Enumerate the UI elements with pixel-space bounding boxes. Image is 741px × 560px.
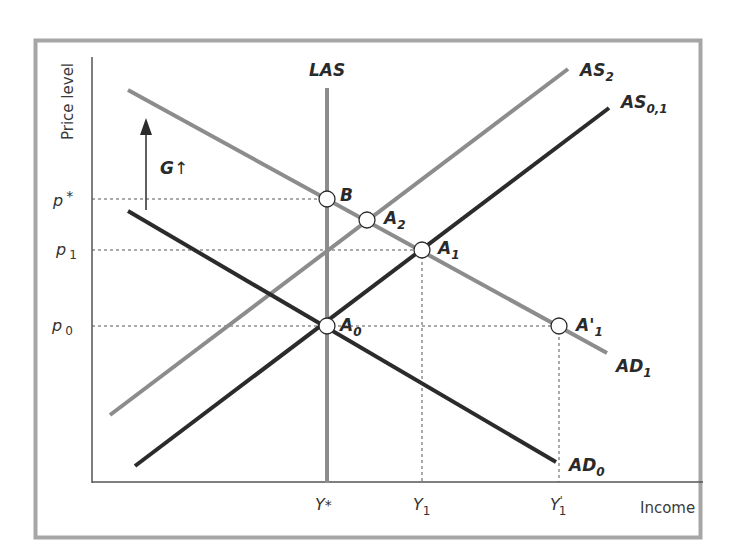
label-as2: AS2 bbox=[578, 60, 614, 84]
point-a0 bbox=[319, 318, 335, 334]
arrow-head-icon bbox=[140, 118, 152, 135]
point-a1-prime bbox=[551, 318, 567, 334]
tick-p-star: p* bbox=[52, 188, 73, 210]
label-ad0: AD0 bbox=[567, 455, 605, 479]
label-as01: AS0,1 bbox=[619, 92, 668, 116]
label-ad1: AD1 bbox=[614, 356, 652, 380]
as01-curve bbox=[135, 108, 609, 466]
y-axis-title: Price level bbox=[59, 63, 77, 140]
label-a2: A2 bbox=[382, 208, 406, 232]
tick-p1: p1 bbox=[55, 240, 77, 262]
label-b: B bbox=[340, 185, 353, 205]
label-las: LAS bbox=[309, 60, 345, 80]
tick-y1-prime: Y'1 bbox=[550, 494, 566, 518]
point-a1 bbox=[414, 242, 430, 258]
label-a1: A1 bbox=[436, 238, 460, 262]
tick-y-star: Y* bbox=[315, 495, 332, 514]
shift-arrow-label: G↑ bbox=[160, 158, 188, 178]
x-axis-title: Income bbox=[640, 499, 695, 517]
point-b bbox=[319, 191, 335, 207]
shift-arrow bbox=[140, 118, 152, 210]
tick-p0: p0 bbox=[51, 316, 73, 338]
ad-as-diagram: G↑ B A2 A1 A0 A'1 LAS AS2 AS0,1 AD1 AD0 … bbox=[0, 0, 741, 560]
tick-y1: Y1 bbox=[413, 495, 430, 518]
point-a2 bbox=[359, 212, 375, 228]
